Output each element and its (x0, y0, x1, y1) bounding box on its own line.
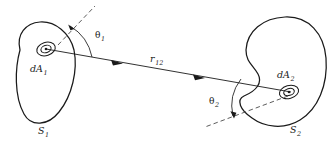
label-dA1-sub: 1 (44, 69, 48, 77)
label-dA2: dA2 (277, 69, 295, 83)
label-S1-base: S (38, 125, 45, 136)
label-theta-2: θ2 (209, 96, 219, 109)
label-S1-sub: 1 (45, 131, 49, 139)
surface-1-normal-dashed-line (58, 6, 95, 45)
label-theta-1-base: θ (95, 30, 100, 40)
element-dA1-center-dot (45, 48, 48, 51)
label-S2-sub: 2 (296, 130, 301, 138)
label-S2: S2 (290, 124, 301, 138)
angle-theta-1-arrowhead (68, 25, 74, 31)
r12-arrowhead-first (111, 60, 123, 66)
label-r12: r12 (150, 53, 163, 67)
radiation-geometry-diagram: θ1 θ2 r12 dA1 dA2 S1 S2 (0, 0, 335, 142)
label-dA2-sub: 2 (290, 75, 295, 83)
label-S2-base: S (290, 124, 297, 135)
label-theta-2-sub: 2 (214, 101, 219, 109)
figure-canvas: θ1 θ2 r12 dA1 dA2 S1 S2 (0, 0, 335, 142)
angle-theta-2-arc (232, 79, 241, 116)
angle-theta-1-arc (70, 26, 92, 57)
label-theta-1-sub: 1 (101, 35, 105, 43)
label-dA1: dA1 (30, 63, 48, 77)
label-S1: S1 (38, 125, 49, 139)
label-dA1-base: dA (30, 63, 43, 74)
label-theta-2-base: θ (209, 96, 214, 106)
element-dA2-center-dot (288, 91, 291, 94)
label-r12-sub: 12 (155, 59, 163, 67)
r12-ray-line (46, 49, 291, 92)
label-dA2-base: dA (277, 69, 290, 80)
label-theta-1: θ1 (95, 30, 105, 43)
